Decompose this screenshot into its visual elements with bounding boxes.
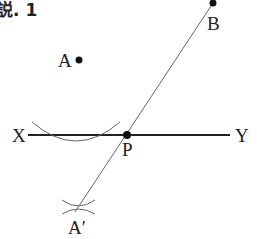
label-x: X (12, 126, 26, 145)
point-p-dot (123, 131, 131, 139)
arc-a-prime-upper (62, 200, 95, 206)
point-b-dot (210, 0, 217, 7)
line-b-a-prime (75, 3, 213, 212)
label-b: B (207, 14, 220, 33)
label-y: Y (235, 126, 249, 145)
label-a: A (58, 51, 72, 70)
arc-around-a (32, 122, 120, 141)
label-a-prime: A′ (68, 218, 86, 237)
point-a-dot (76, 57, 83, 64)
arc-a-prime-lower (62, 209, 95, 214)
label-p: P (122, 140, 133, 159)
geometry-diagram (0, 0, 257, 239)
